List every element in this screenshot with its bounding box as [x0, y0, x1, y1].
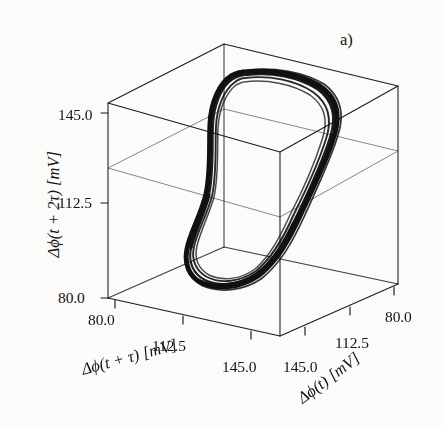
x-axis-tick-label-145: 145.0 — [283, 359, 317, 375]
box-bottom-right-edge — [280, 284, 398, 336]
trajectory-bottom-turn — [191, 195, 209, 248]
x-axis-tick-label-80: 80.0 — [385, 309, 412, 325]
z-axis-tick-label-145: 145.0 — [58, 107, 92, 123]
box-top-face — [108, 44, 398, 152]
grid-lines — [108, 109, 398, 317]
trajectory-right-branch — [260, 135, 333, 273]
axis-box-frame — [108, 44, 398, 336]
y-axis-tick-label-145: 145.0 — [222, 359, 256, 375]
z-axis-tick-label-80: 80.0 — [58, 290, 85, 306]
box-bottom-back-left-edge — [108, 247, 224, 298]
attractor-trajectory — [185, 69, 341, 290]
z-axis-tick-label-112: 112.5 — [58, 195, 92, 211]
panel-label: a) — [340, 32, 353, 49]
grid-backleft-wall-z1 — [108, 109, 224, 168]
y-axis-tick-label-112: 112.5 — [152, 338, 186, 354]
box-bottom-left-edge — [108, 298, 280, 336]
y-axis-tick-label-80: 80.0 — [88, 312, 115, 328]
grid-left-wall-z1 — [108, 168, 280, 217]
x-axis-tick-label-112: 112.5 — [335, 335, 369, 351]
figure-panel: Δϕ(t + 2τ) [mV] 80.0 112.5 145.0 Δϕ(t + … — [0, 0, 444, 426]
grid-back-wall-z1 — [224, 109, 398, 151]
